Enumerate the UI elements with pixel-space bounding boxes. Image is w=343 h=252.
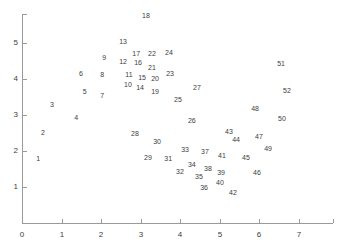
data-point-label: 30	[153, 137, 161, 144]
x-tick-mark	[141, 219, 142, 223]
data-point-label: 26	[188, 117, 196, 124]
y-tick-mark	[23, 115, 27, 116]
y-tick-mark	[23, 151, 27, 152]
y-axis-line	[22, 14, 23, 224]
data-point-label: 49	[264, 145, 272, 152]
data-point-label: 11	[125, 71, 132, 78]
data-point-label: 12	[119, 58, 127, 65]
data-point-label: 13	[119, 37, 127, 44]
y-tick-mark	[23, 187, 27, 188]
x-tick-label: 6	[257, 231, 261, 239]
x-tick-mark	[62, 219, 63, 223]
data-point-label: 24	[165, 49, 173, 56]
data-point-label: 17	[132, 50, 140, 57]
data-point-label: 16	[134, 59, 142, 66]
x-tick-mark	[101, 219, 102, 223]
data-point-label: 14	[136, 83, 144, 90]
data-point-label: 34	[188, 161, 196, 168]
x-tick-label: 1	[60, 231, 64, 239]
scatter-plot: 01234567 12345 1234567891011121314151617…	[0, 0, 343, 252]
y-axis-end-cap	[23, 14, 27, 15]
data-point-label: 45	[242, 154, 250, 161]
data-point-label: 5	[83, 87, 87, 94]
data-point-label: 46	[253, 168, 261, 175]
data-point-label: 23	[166, 69, 174, 76]
x-axis-end-cap	[333, 219, 334, 223]
x-tick-label: 0	[20, 231, 24, 239]
y-tick-label: 3	[9, 111, 18, 119]
x-tick-mark	[220, 219, 221, 223]
y-tick-label: 4	[9, 75, 18, 83]
data-point-label: 9	[102, 54, 106, 61]
data-point-label: 44	[232, 136, 240, 143]
x-tick-mark	[299, 219, 300, 223]
data-point-label: 41	[218, 152, 226, 159]
data-point-label: 52	[283, 87, 291, 94]
data-point-label: 8	[100, 71, 104, 78]
data-point-label: 32	[176, 168, 184, 175]
data-point-label: 7	[100, 91, 104, 98]
x-axis-line	[22, 223, 333, 224]
data-point-label: 15	[138, 73, 146, 80]
x-tick-mark	[180, 219, 181, 223]
data-point-label: 51	[277, 60, 285, 67]
x-tick-label: 2	[99, 231, 103, 239]
data-point-label: 43	[225, 127, 233, 134]
data-point-label: 18	[142, 11, 150, 18]
x-tick-label: 7	[297, 231, 301, 239]
data-point-label: 40	[216, 179, 224, 186]
y-tick-mark	[23, 79, 27, 80]
x-tick-label: 4	[178, 231, 182, 239]
data-point-label: 10	[124, 81, 132, 88]
data-point-label: 1	[36, 154, 40, 161]
data-point-label: 19	[151, 87, 159, 94]
data-point-label: 50	[278, 114, 286, 121]
data-point-label: 48	[251, 105, 259, 112]
data-point-label: 3	[50, 100, 54, 107]
data-point-label: 20	[151, 74, 159, 81]
x-tick-label: 3	[139, 231, 143, 239]
data-point-label: 27	[193, 83, 201, 90]
y-tick-label: 1	[9, 183, 18, 191]
x-tick-label: 5	[218, 231, 222, 239]
data-point-label: 21	[148, 64, 156, 71]
data-point-label: 47	[255, 132, 263, 139]
y-tick-label: 2	[9, 147, 18, 155]
data-point-label: 28	[131, 130, 139, 137]
data-point-label: 4	[74, 114, 78, 121]
data-point-label: 35	[195, 172, 203, 179]
data-point-label: 33	[181, 145, 189, 152]
data-point-label: 38	[204, 164, 212, 171]
x-tick-mark	[259, 219, 260, 223]
data-point-label: 2	[41, 128, 45, 135]
data-point-label: 22	[148, 50, 156, 57]
data-point-label: 36	[200, 184, 208, 191]
data-point-label: 31	[164, 154, 172, 161]
y-tick-mark	[23, 43, 27, 44]
data-point-label: 25	[174, 96, 182, 103]
data-point-label: 6	[79, 69, 83, 76]
data-point-label: 29	[144, 154, 152, 161]
data-point-label: 42	[229, 189, 237, 196]
data-point-label: 37	[201, 148, 209, 155]
data-point-label: 39	[217, 168, 225, 175]
y-tick-label: 5	[9, 39, 18, 47]
